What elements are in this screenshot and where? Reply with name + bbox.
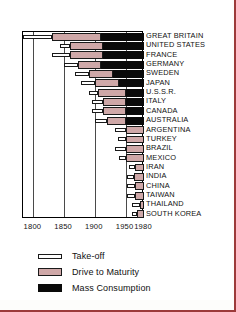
category-label: TURKEY — [146, 134, 177, 143]
legend-item-drive: Drive to Maturity — [38, 265, 208, 279]
bar-segment-takeoff — [75, 72, 89, 76]
page-background: GREAT BRITAINUNITED STATESFRANCEGERMANYS… — [0, 0, 236, 312]
bar-segment-drive — [126, 126, 144, 134]
bar-row — [23, 41, 142, 50]
legend-item-takeoff: Take-off — [38, 249, 208, 263]
x-tick-label: 1850 — [54, 222, 72, 231]
bar-segment-takeoff — [92, 100, 104, 104]
category-label: BRAZIL — [146, 143, 173, 152]
x-tick-label: 1800 — [24, 222, 42, 231]
bar-segment-takeoff — [23, 35, 52, 39]
category-label: CHINA — [146, 181, 170, 190]
category-label: TAIWAN — [146, 190, 175, 199]
bar-segment-drive — [103, 98, 125, 106]
bar-row — [23, 182, 142, 191]
bar-segment-mass — [103, 42, 144, 50]
category-label: GERMANY — [146, 59, 184, 68]
bar-segment-takeoff — [60, 44, 70, 48]
legend-label: Drive to Maturity — [72, 267, 139, 277]
chart-legend: Take-offDrive to MaturityMass Consumptio… — [38, 249, 208, 297]
bar-segment-drive — [126, 154, 144, 162]
bar-rows — [23, 32, 142, 217]
bar-segment-takeoff — [64, 63, 78, 67]
bar-segment-drive — [107, 117, 125, 125]
legend-item-mass: Mass Consumption — [38, 281, 208, 295]
category-label: FRANCE — [146, 50, 177, 59]
bar-row — [23, 154, 142, 163]
bar-segment-drive — [135, 192, 144, 200]
x-axis-ticks: 18001850190019501980 — [22, 222, 143, 236]
bar-segment-drive — [52, 33, 101, 41]
bar-segment-drive — [95, 79, 120, 87]
bar-row — [23, 116, 142, 125]
bar-segment-takeoff — [92, 109, 103, 113]
bar-segment-mass — [126, 107, 144, 115]
bar-row — [23, 135, 142, 144]
bar-segment-mass — [113, 70, 144, 78]
category-label: INDIA — [146, 171, 166, 180]
bar-segment-takeoff — [81, 81, 95, 85]
bar-segment-takeoff — [118, 137, 126, 141]
category-label: UNITED STATES — [146, 40, 205, 49]
bar-segment-mass — [126, 89, 144, 97]
bar-row — [23, 32, 142, 41]
bar-segment-takeoff — [129, 165, 135, 169]
category-label: JAPAN — [146, 78, 170, 87]
bar-segment-drive — [98, 89, 126, 97]
bar-row — [23, 210, 142, 219]
x-tick-label: 1900 — [85, 222, 103, 231]
category-label: U.S.S.R. — [146, 87, 176, 96]
bar-segment-drive — [137, 210, 144, 218]
bar-segment-drive — [78, 61, 101, 69]
bar-segment-mass — [101, 33, 144, 41]
x-tick-label: 1980 — [134, 222, 152, 231]
bar-segment-takeoff — [127, 194, 134, 198]
bar-segment-drive — [126, 136, 144, 144]
bar-segment-mass — [126, 117, 144, 125]
category-label: AUSTRALIA — [146, 115, 188, 124]
bar-row — [23, 88, 142, 97]
plot-area — [22, 31, 143, 218]
category-labels: GREAT BRITAINUNITED STATESFRANCEGERMANYS… — [146, 31, 234, 218]
bar-segment-takeoff — [89, 91, 98, 95]
bar-segment-takeoff — [127, 184, 135, 188]
bar-segment-drive — [140, 201, 144, 209]
bar-row — [23, 172, 142, 181]
bar-row — [23, 191, 142, 200]
legend-swatch-takeoff — [38, 254, 62, 259]
bar-row — [23, 200, 142, 209]
bar-row — [23, 144, 142, 153]
bar-segment-mass — [119, 79, 144, 87]
bar-segment-takeoff — [119, 156, 125, 160]
legend-swatch-mass — [38, 284, 62, 292]
bar-segment-drive — [70, 51, 103, 59]
category-label: THAILAND — [146, 199, 184, 208]
bar-row — [23, 51, 142, 60]
bar-segment-mass — [101, 61, 144, 69]
bar-row — [23, 60, 142, 69]
x-tick-label: 1950 — [116, 222, 134, 231]
bar-row — [23, 97, 142, 106]
bar-segment-takeoff — [132, 212, 136, 216]
category-label: CANADA — [146, 106, 178, 115]
category-label: GREAT BRITAIN — [146, 31, 203, 40]
bar-row — [23, 163, 142, 172]
bar-segment-mass — [103, 51, 144, 59]
category-label: ITALY — [146, 96, 166, 105]
bar-segment-drive — [134, 173, 144, 181]
bar-row — [23, 126, 142, 135]
figure-canvas: GREAT BRITAINUNITED STATESFRANCEGERMANYS… — [0, 0, 232, 300]
bar-segment-drive — [135, 182, 144, 190]
bar-segment-takeoff — [115, 147, 125, 151]
bar-segment-drive — [103, 107, 125, 115]
bar-segment-drive — [89, 70, 114, 78]
category-label: SOUTH KOREA — [146, 209, 201, 218]
category-label: SWEDEN — [146, 68, 179, 77]
legend-swatch-drive — [38, 268, 62, 276]
bar-segment-drive — [135, 164, 144, 172]
bar-segment-drive — [126, 145, 144, 153]
legend-label: Take-off — [72, 251, 105, 261]
bar-segment-takeoff — [132, 203, 140, 207]
category-label: MEXICO — [146, 153, 176, 162]
bar-segment-mass — [126, 98, 144, 106]
